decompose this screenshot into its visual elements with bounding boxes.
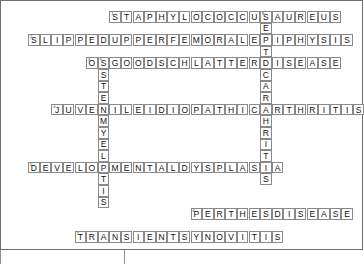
cell-letter: E <box>99 140 109 149</box>
cell-letter: Y <box>168 13 178 22</box>
crossword-cell: T <box>260 46 272 58</box>
cell-letter: S <box>99 198 109 207</box>
cell-letter: T <box>76 233 86 242</box>
crossword-cell: S <box>202 162 214 174</box>
crossword-cell: N <box>98 104 110 116</box>
crossword-cell: A <box>133 11 145 23</box>
crossword-cell: H <box>260 115 272 127</box>
cell-letter: I <box>134 233 144 242</box>
cell-letter: T <box>331 105 341 114</box>
cell-letter: I <box>319 105 329 114</box>
cell-letter: R <box>157 36 167 45</box>
cell-letter: A <box>273 163 283 172</box>
crossword-cell: R <box>260 127 272 139</box>
crossword-cell: S <box>249 162 261 174</box>
crossword-cell: T <box>249 231 261 243</box>
crossword-cell: H <box>295 34 307 46</box>
crossword-cell: L <box>121 104 133 116</box>
cell-letter: A <box>99 233 109 242</box>
cell-letter: Y <box>192 233 202 242</box>
crossword-cell: L <box>191 57 203 69</box>
crossword-grid: 1STAPHYLOCOCCU8SAUREUS2SLIPPEDUPPERFEMOR… <box>0 0 364 264</box>
crossword-cell: I <box>272 57 284 69</box>
figure-page: 1STAPHYLOCOCCU8SAUREUS2SLIPPEDUPPERFEMOR… <box>0 0 364 264</box>
cell-letter: I <box>273 59 283 68</box>
cell-letter: I <box>52 36 62 45</box>
cell-letter: A <box>308 59 318 68</box>
cell-letter: T <box>261 152 271 161</box>
crossword-cell: A <box>272 11 284 23</box>
crossword-cell: D <box>260 57 272 69</box>
cell-letter: E <box>261 24 271 33</box>
crossword-cell: E <box>249 208 261 220</box>
cell-letter: R <box>296 13 306 22</box>
crossword-cell: R <box>249 57 261 69</box>
cell-letter: A <box>319 210 329 219</box>
cell-letter: S <box>331 13 341 22</box>
cell-letter: O <box>134 59 144 68</box>
cell-letter: E <box>308 13 318 22</box>
cell-letter: E <box>145 233 155 242</box>
cell-letter: S <box>342 36 352 45</box>
cell-letter: I <box>238 105 248 114</box>
cell-letter: I <box>238 233 248 242</box>
cell-letter: I <box>168 105 178 114</box>
crossword-cell: O <box>202 34 214 46</box>
cell-letter: D <box>29 163 39 172</box>
cell-letter: S <box>157 59 167 68</box>
crossword-cell: A <box>202 57 214 69</box>
cell-letter: P <box>64 36 74 45</box>
crossword-cell: I <box>51 34 63 46</box>
cell-letter: C <box>226 13 236 22</box>
cell-letter: E <box>134 105 144 114</box>
cell-letter: E <box>87 105 97 114</box>
cell-letter: E <box>122 163 132 172</box>
crossword-cell: P <box>191 104 203 116</box>
cell-letter: O <box>215 13 225 22</box>
cell-letter: I <box>261 233 271 242</box>
crossword-cell: I <box>133 231 145 243</box>
cell-letter: T <box>261 47 271 56</box>
cell-letter: E <box>308 210 318 219</box>
cell-letter: N <box>99 105 109 114</box>
crossword-cell: E <box>144 231 156 243</box>
cell-letter: I <box>284 210 294 219</box>
cell-letter: P <box>76 36 86 45</box>
crossword-cell: I <box>283 208 295 220</box>
crossword-cell: H <box>295 104 307 116</box>
crossword-cell: T <box>214 57 226 69</box>
cell-letter: E <box>296 59 306 68</box>
crossword-cell: Y <box>307 34 319 46</box>
crossword-cell: 5D <box>28 162 40 174</box>
crossword-cell: T <box>144 162 156 174</box>
cell-letter: A <box>157 163 167 172</box>
cell-letter: S <box>296 210 306 219</box>
crossword-cell: V <box>225 231 237 243</box>
crossword-cell: E <box>133 104 145 116</box>
cell-letter: A <box>238 163 248 172</box>
crossword-cell: S <box>318 57 330 69</box>
cell-letter: J <box>52 105 62 114</box>
crossword-cell: Y <box>167 11 179 23</box>
cell-letter: I <box>110 105 120 114</box>
crossword-cell: E <box>98 92 110 104</box>
cell-letter: H <box>296 36 306 45</box>
cell-letter: S <box>122 233 132 242</box>
cell-letter: R <box>87 233 97 242</box>
cell-letter: V <box>76 105 86 114</box>
crossword-cell: A <box>156 162 168 174</box>
cell-letter: R <box>308 105 318 114</box>
cell-letter: T <box>168 233 178 242</box>
crossword-cell: R <box>295 11 307 23</box>
crossword-cell: E <box>295 57 307 69</box>
cell-letter: S <box>99 71 109 80</box>
crossword-cell: S <box>260 208 272 220</box>
crossword-cell: R <box>260 92 272 104</box>
crossword-cell: Y <box>191 162 203 174</box>
cell-letter: H <box>157 13 167 22</box>
cell-letter: P <box>192 210 202 219</box>
crossword-cell: P <box>133 34 145 46</box>
cell-letter: H <box>261 117 271 126</box>
cell-letter: D <box>273 210 283 219</box>
crossword-cell: 1S <box>109 11 121 23</box>
